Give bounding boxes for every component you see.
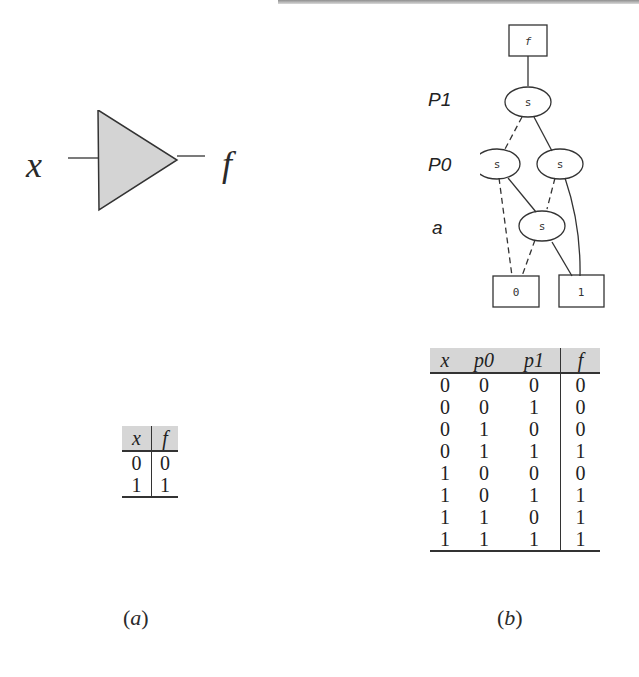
truth-table-a: x f 0 0 1 1 — [122, 426, 178, 498]
edge-p1-high — [534, 117, 552, 151]
table-row: 0010 — [430, 396, 600, 418]
level-label-p1: P1 — [428, 89, 451, 111]
cell: 1 — [508, 528, 561, 551]
bdd-node-label: s — [539, 220, 546, 233]
edge-p0a-low — [499, 178, 512, 276]
table-row: 0111 — [430, 440, 600, 462]
cell: 1 — [460, 528, 508, 551]
bdd-node-label: s — [494, 158, 501, 171]
cell: 1 — [561, 528, 601, 551]
table-row: 1111 — [430, 528, 600, 551]
panel-a: x f x f 0 0 1 1 (a) — [0, 0, 320, 677]
cell: 1 — [430, 484, 460, 506]
caption-b: (b) — [497, 605, 523, 631]
table-header-row: x p0 p1 f — [430, 348, 600, 373]
level-label-p0: P0 — [428, 154, 451, 176]
bdd-node-label: s — [557, 158, 564, 171]
caption-letter: a — [130, 605, 141, 630]
cell: 0 — [508, 418, 561, 440]
cell: 1 — [430, 462, 460, 484]
cell: 0 — [561, 418, 601, 440]
edge-p0a-high — [508, 178, 536, 212]
caption-paren: ) — [515, 605, 522, 630]
cell: 1 — [152, 474, 179, 497]
buffer-gate-icon — [60, 110, 210, 220]
edge-a-low — [522, 240, 535, 276]
bdd-terminal-1-label: 1 — [578, 286, 585, 299]
cell: 1 — [561, 506, 601, 528]
cell: 0 — [508, 373, 561, 396]
cell: 0 — [430, 418, 460, 440]
column-header-x: x — [430, 348, 460, 373]
edge-p1-low — [504, 117, 522, 151]
cell: 0 — [508, 462, 561, 484]
bdd-root-label: f — [525, 35, 532, 48]
table-row: 0 0 — [122, 451, 178, 474]
caption-paren: ) — [141, 605, 148, 630]
edge-a-high — [552, 242, 572, 276]
cell: 0 — [460, 373, 508, 396]
panel-b: P1 P0 a f s s s s — [320, 0, 639, 677]
bdd-terminal-0-label: 0 — [513, 286, 520, 299]
table-row: 1101 — [430, 506, 600, 528]
level-label-a: a — [432, 217, 443, 239]
table-row: 0100 — [430, 418, 600, 440]
cell: 1 — [460, 418, 508, 440]
cell: 0 — [460, 462, 508, 484]
cell: 1 — [430, 506, 460, 528]
caption-letter: b — [504, 605, 515, 630]
cell: 0 — [430, 440, 460, 462]
edge-p0b-high — [565, 178, 580, 276]
gate-output-label: f — [222, 143, 232, 185]
cell: 0 — [561, 396, 601, 418]
cell: 0 — [460, 396, 508, 418]
column-header-f: f — [152, 426, 179, 451]
cell: 1 — [122, 474, 152, 497]
column-header-p1: p1 — [508, 348, 561, 373]
cell: 0 — [508, 506, 561, 528]
table-header-row: x f — [122, 426, 178, 451]
cell: 1 — [460, 506, 508, 528]
cell: 1 — [508, 396, 561, 418]
truth-table-b: x p0 p1 f 000000100100011110001011110111… — [430, 348, 600, 552]
cell: 0 — [152, 451, 179, 474]
table-row: 0000 — [430, 373, 600, 396]
column-header-p0: p0 — [460, 348, 508, 373]
cell: 0 — [561, 462, 601, 484]
cell: 1 — [561, 440, 601, 462]
table-row: 1 1 — [122, 474, 178, 497]
column-header-f: f — [561, 348, 601, 373]
edge-p0b-low — [547, 178, 555, 209]
table-row: 1000 — [430, 462, 600, 484]
cell: 1 — [508, 484, 561, 506]
cell: 1 — [508, 440, 561, 462]
cell: 0 — [430, 396, 460, 418]
bdd-graph: f s s s s 0 1 — [480, 0, 639, 315]
cell: 0 — [460, 484, 508, 506]
cell: 1 — [460, 440, 508, 462]
bdd-node-label: s — [525, 96, 532, 109]
gate-input-label: x — [26, 144, 42, 186]
cell: 1 — [430, 528, 460, 551]
table-row: 1011 — [430, 484, 600, 506]
cell: 1 — [561, 484, 601, 506]
cell: 0 — [561, 373, 601, 396]
cell: 0 — [430, 373, 460, 396]
caption-a: (a) — [123, 605, 149, 631]
column-header-x: x — [122, 426, 152, 451]
cell: 0 — [122, 451, 152, 474]
